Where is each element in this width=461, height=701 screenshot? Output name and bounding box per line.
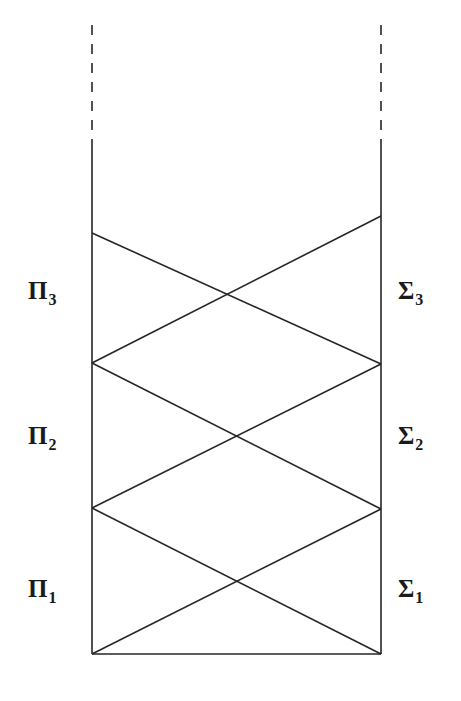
label-sigma-1: Σ1 [398,576,422,601]
label-sigma-1-base: Σ [398,575,414,602]
diagonal-edge-6 [92,233,381,364]
label-pi-2-base: Π [28,422,47,449]
dashed-rail-group [92,25,381,144]
hierarchy-diagram [0,0,461,701]
label-pi-3-subscript: 3 [48,291,56,308]
label-pi-1-subscript: 1 [48,589,56,606]
label-sigma-2-subscript: 2 [415,436,423,453]
label-pi-2: Π2 [28,423,55,448]
diagonal-edge-group [92,216,381,654]
label-sigma-1-subscript: 1 [415,589,423,606]
solid-rail-group [92,144,381,654]
label-pi-2-subscript: 2 [48,436,56,453]
label-sigma-3-subscript: 3 [415,291,423,308]
label-pi-3-base: Π [28,277,47,304]
label-sigma-2: Σ2 [398,423,422,448]
label-pi-1-base: Π [28,575,47,602]
diagonal-edge-5 [92,216,381,363]
label-sigma-3-base: Σ [398,277,414,304]
label-sigma-2-base: Σ [398,422,414,449]
label-pi-1: Π1 [28,576,55,601]
figure-root: Π3Π2Π1 Σ3Σ2Σ1 [0,0,461,701]
label-pi-3: Π3 [28,278,55,303]
label-sigma-3: Σ3 [398,278,422,303]
